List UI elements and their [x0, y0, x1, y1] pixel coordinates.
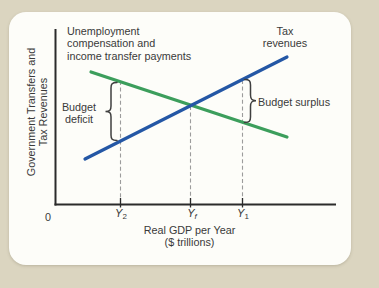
x-tick-label-y1-sub: 1 [244, 212, 248, 221]
x-axis-title-line2: ($ trillions) [117, 236, 262, 248]
transfer-curve-label: Unemployment compensation and income tra… [67, 25, 191, 62]
x-tick-label-y2-sub: 2 [122, 212, 126, 221]
deficit-brace [106, 83, 118, 141]
x-tick-label-yf: Yf [177, 207, 207, 221]
x-tick-label-y2: Y2 [106, 207, 136, 221]
x-axis-title-line1: Real GDP per Year [117, 224, 262, 236]
budget-deficit-label-line1: Budget [56, 101, 102, 113]
x-tick-label-yf-base: Y [187, 207, 194, 219]
tax-curve-label-line1: Tax [254, 25, 316, 37]
transfer-curve-label-line2: compensation and [67, 37, 191, 49]
tax-revenues-line [85, 57, 287, 159]
budget-surplus-label: Budget surplus [258, 96, 330, 108]
x-tick-label-yf-sub: f [195, 212, 197, 221]
origin-label: 0 [38, 211, 58, 223]
budget-deficit-label-line2: deficit [56, 113, 102, 125]
surplus-brace [245, 80, 257, 123]
transfer-curve-label-line1: Unemployment [67, 25, 191, 37]
y-axis-title-line2: Tax Revenues [38, 48, 50, 176]
figure: Unemployment compensation and income tra… [0, 0, 379, 288]
budget-deficit-label: Budget deficit [56, 101, 102, 126]
y-axis-title: Government Transfers and Tax Revenues [26, 48, 50, 176]
tax-curve-label: Tax revenues [254, 25, 316, 50]
x-tick-label-y1: Y1 [228, 207, 258, 221]
x-axis-title: Real GDP per Year ($ trillions) [117, 224, 262, 249]
transfer-curve-label-line3: income transfer payments [67, 50, 191, 62]
tax-curve-label-line2: revenues [254, 37, 316, 49]
